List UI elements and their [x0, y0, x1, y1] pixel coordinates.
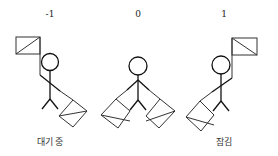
label-standby: 대기 중 — [37, 135, 64, 148]
flag-icon — [146, 99, 175, 128]
head-icon — [42, 54, 59, 71]
figure-minus-one — [16, 37, 87, 127]
head-icon — [212, 56, 230, 74]
flag-icon — [232, 38, 257, 55]
flag-icon — [101, 99, 130, 128]
flag-icon — [59, 100, 87, 127]
figure-zero — [101, 57, 175, 128]
label-locked: 잠김 — [216, 135, 232, 148]
flag-icon — [16, 37, 40, 54]
head-icon — [129, 57, 147, 75]
figure-one — [186, 38, 257, 131]
flag-icon — [186, 101, 214, 131]
semaphore-diagram — [0, 0, 278, 156]
